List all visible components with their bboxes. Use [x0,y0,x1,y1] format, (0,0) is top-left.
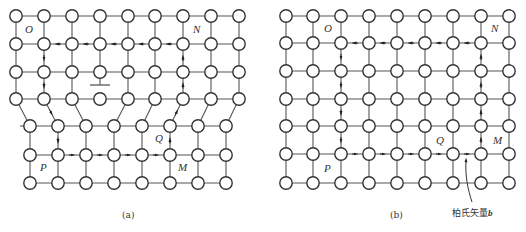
atom [52,149,64,161]
atom [419,120,431,132]
atom [475,177,487,189]
atom [10,93,22,105]
atom [38,10,50,22]
atom [363,10,375,22]
atom [164,149,176,161]
atom [108,149,120,161]
burgers-vector-text: 柏氏矢量 [452,208,488,218]
atom [335,120,347,132]
atom [419,148,431,160]
atom [419,93,431,105]
atom [149,38,161,50]
atom [136,149,148,161]
atom [52,177,64,189]
atom [391,65,403,77]
label-a-M: M [178,161,187,173]
atom [94,10,106,22]
burgers-vector-pointer [466,160,472,202]
atom [503,177,515,189]
atom [307,37,319,49]
atom [122,66,134,78]
atom [447,10,459,22]
atom [205,38,217,50]
atom [108,177,120,189]
atom [391,37,403,49]
atom [108,120,120,132]
atom [38,38,50,50]
atom [164,120,176,132]
atom [66,38,78,50]
atom [335,37,347,49]
atom [66,66,78,78]
burgers-circuit-diagram [0,0,526,232]
atom [280,93,292,105]
atom [24,149,36,161]
burgers-vector-symbol: b [488,208,493,218]
atom [94,38,106,50]
atom [10,38,22,50]
label-a-O: O [25,23,33,35]
atom [66,93,78,105]
atom [149,93,161,105]
atom [38,66,50,78]
atom [24,120,36,132]
atom [363,177,375,189]
atom [220,149,232,161]
atom [363,37,375,49]
atom [149,10,161,22]
atom [447,37,459,49]
atom [419,10,431,22]
atom [10,10,22,22]
atom [233,93,245,105]
atom [205,66,217,78]
atom [136,177,148,189]
atom [122,93,134,105]
atom [38,93,50,105]
atom [503,65,515,77]
atom [475,10,487,22]
atom [391,120,403,132]
caption-a: (a) [122,210,134,220]
atom [447,65,459,77]
atom [233,66,245,78]
atom [24,177,36,189]
atom [335,148,347,160]
atom [475,93,487,105]
atom [80,120,92,132]
atom [94,93,106,105]
atom [280,177,292,189]
atom [391,177,403,189]
atom [205,10,217,22]
atom [52,120,64,132]
atom [205,93,217,105]
atom [66,10,78,22]
atom [94,66,106,78]
atom [192,120,204,132]
atom [80,149,92,161]
atom [280,37,292,49]
atom [503,120,515,132]
atom [419,37,431,49]
atom [475,120,487,132]
atom [177,38,189,50]
atom [391,148,403,160]
atom [419,65,431,77]
atom [363,148,375,160]
atom [192,177,204,189]
atom [233,10,245,22]
atom [307,148,319,160]
label-a-P: P [40,161,47,173]
label-b-Q: Q [436,134,444,146]
atom [475,148,487,160]
atom [335,65,347,77]
atom [447,120,459,132]
atom [335,93,347,105]
burgers-vector-label: 柏氏矢量b [452,206,493,219]
caption-b: (b) [390,210,403,220]
atom [307,93,319,105]
atom [177,93,189,105]
atom [307,177,319,189]
label-b-O: O [324,22,332,34]
atom [80,177,92,189]
atom [307,120,319,132]
